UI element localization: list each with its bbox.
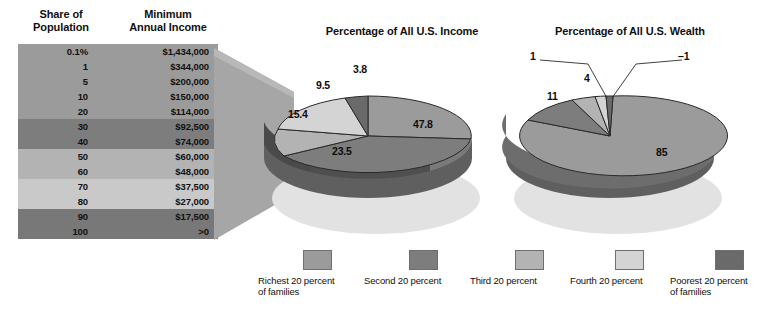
pie-chart-wealth-title: Percentage of All U.S. Wealth — [524, 25, 736, 37]
table-row: 80$27,000 — [18, 194, 218, 209]
cell-share-of-population: 100 — [18, 226, 106, 237]
cell-share-of-population: 40 — [18, 136, 106, 147]
table-row: 70$37,500 — [18, 179, 218, 194]
pie-wealth-value-second: 11 — [547, 90, 558, 102]
table-row: 50$60,000 — [18, 149, 218, 164]
cell-minimum-annual-income: $37,500 — [106, 181, 218, 192]
pie-wealth-value-richest: 85 — [656, 146, 667, 158]
table-header-row: Share of Population Minimum Annual Incom… — [18, 8, 218, 44]
cell-share-of-population: 5 — [18, 76, 106, 87]
legend-item: Richest 20 percent of families — [258, 250, 376, 297]
legend-swatch — [715, 250, 744, 270]
cell-minimum-annual-income: $150,000 — [106, 91, 218, 102]
chart-legend: Richest 20 percent of familiesSecond 20 … — [258, 250, 758, 310]
cell-minimum-annual-income: $344,000 — [106, 61, 218, 72]
legend-swatch — [515, 250, 544, 270]
table-row: 1$344,000 — [18, 59, 218, 74]
cell-minimum-annual-income: $92,500 — [106, 121, 218, 132]
cell-share-of-population: 1 — [18, 61, 106, 72]
pie-chart-wealth-svg — [488, 40, 738, 245]
pie-chart-wealth: 85 11 4 1 –1 — [488, 40, 738, 245]
pie-chart-income-svg — [248, 40, 488, 245]
pie-income-value-third: 15.4 — [288, 108, 308, 120]
cell-minimum-annual-income: $48,000 — [106, 166, 218, 177]
cell-share-of-population: 0.1% — [18, 46, 106, 57]
cell-share-of-population: 70 — [18, 181, 106, 192]
legend-swatch — [409, 250, 438, 270]
pie-wealth-value-poorest: –1 — [678, 50, 689, 62]
legend-label: Richest 20 percent of families — [258, 275, 376, 297]
legend-label: Poorest 20 percent of families — [670, 275, 768, 297]
pie-income-value-second: 23.5 — [332, 145, 352, 157]
pie-wealth-slices — [520, 96, 728, 176]
cell-minimum-annual-income: $17,500 — [106, 211, 218, 222]
cell-share-of-population: 10 — [18, 91, 106, 102]
income-distribution-table: Share of Population Minimum Annual Incom… — [18, 8, 218, 239]
cell-share-of-population: 90 — [18, 211, 106, 222]
pie-chart-income: 47.8 23.5 15.4 9.5 3.8 — [248, 40, 488, 245]
table-row: 90$17,500 — [18, 209, 218, 224]
pie-wealth-value-fourth: 1 — [530, 50, 536, 62]
pie-income-value-poorest: 3.8 — [353, 63, 367, 75]
legend-swatch — [615, 250, 644, 270]
legend-swatch — [303, 250, 332, 270]
column-header-share-of-population: Share of Population — [24, 8, 98, 33]
cell-minimum-annual-income: $1,434,000 — [106, 46, 218, 57]
column-header-minimum-annual-income: Minimum Annual Income — [122, 8, 214, 33]
table-row: 20$114,000 — [18, 104, 218, 119]
table-row: 10$150,000 — [18, 89, 218, 104]
cell-share-of-population: 80 — [18, 196, 106, 207]
table-body: 0.1%$1,434,0001$344,0005$200,00010$150,0… — [18, 44, 218, 239]
cell-share-of-population: 20 — [18, 106, 106, 117]
legend-item: Poorest 20 percent of families — [670, 250, 768, 297]
table-row: 100>0 — [18, 224, 218, 239]
cell-minimum-annual-income: $200,000 — [106, 76, 218, 87]
table-row: 0.1%$1,434,000 — [18, 44, 218, 59]
cell-minimum-annual-income: $114,000 — [106, 106, 218, 117]
pie-chart-income-title: Percentage of All U.S. Income — [296, 25, 508, 37]
cell-share-of-population: 30 — [18, 121, 106, 132]
table-row: 40$74,000 — [18, 134, 218, 149]
table-row: 30$92,500 — [18, 119, 218, 134]
pie-wealth-value-third: 4 — [584, 72, 590, 84]
pie-income-value-richest: 47.8 — [413, 118, 433, 130]
legend-label: Second 20 percent — [364, 275, 482, 286]
cell-minimum-annual-income: >0 — [106, 226, 218, 237]
pie-income-value-fourth: 9.5 — [316, 79, 330, 91]
cell-share-of-population: 50 — [18, 151, 106, 162]
cell-share-of-population: 60 — [18, 166, 106, 177]
table-row: 5$200,000 — [18, 74, 218, 89]
legend-item: Second 20 percent — [364, 250, 482, 286]
table-row: 60$48,000 — [18, 164, 218, 179]
cell-minimum-annual-income: $74,000 — [106, 136, 218, 147]
cell-minimum-annual-income: $27,000 — [106, 196, 218, 207]
cell-minimum-annual-income: $60,000 — [106, 151, 218, 162]
